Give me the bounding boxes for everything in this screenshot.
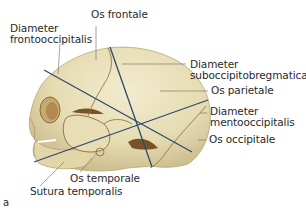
label-diameter-suboccipitobregmatica-line2: suboccipitobregmatica bbox=[190, 70, 306, 81]
fetal-skull-figure: Os frontale Diameter frontooccipitalis D… bbox=[0, 0, 306, 217]
label-sutura-temporalis: Sutura temporalis bbox=[30, 186, 122, 197]
label-diameter-suboccipitobregmatica: Diameter suboccipitobregmatica bbox=[190, 59, 306, 81]
label-diameter-frontooccipitalis: Diameter frontooccipitalis bbox=[10, 23, 92, 45]
label-os-occipitale: Os occipitale bbox=[209, 134, 275, 145]
label-os-parietale: Os parietale bbox=[211, 85, 274, 96]
label-os-frontale: Os frontale bbox=[91, 9, 148, 20]
label-diameter-mentooccipitalis-line2: mentooccipitalis bbox=[210, 117, 295, 128]
label-os-temporale: Os temporale bbox=[70, 173, 140, 184]
label-diameter-mentooccipitalis: Diameter mentooccipitalis bbox=[210, 106, 295, 128]
orbit-shadow bbox=[46, 102, 58, 120]
label-diameter-frontooccipitalis-line2: frontooccipitalis bbox=[10, 34, 92, 45]
panel-letter: a bbox=[3, 197, 9, 208]
